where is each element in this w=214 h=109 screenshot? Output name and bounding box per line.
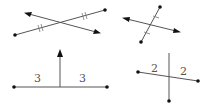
segment: [138, 72, 198, 81]
endpoint: [136, 70, 140, 74]
length-label: 2: [180, 65, 187, 78]
endpoint: [158, 5, 162, 9]
endpoint: [167, 99, 171, 103]
figure-4-perpendicular-segment: 2 2: [136, 53, 200, 103]
length-label: 3: [34, 72, 41, 85]
endpoint: [13, 33, 17, 37]
arrowhead-icon: [57, 49, 63, 57]
arrowhead-icon: [173, 28, 181, 33]
endpoint: [103, 8, 107, 12]
length-label: 3: [79, 72, 86, 85]
endpoint: [196, 79, 200, 83]
figure-1-bisector: [13, 8, 107, 37]
arrowhead-icon: [122, 17, 130, 22]
endpoint: [12, 85, 16, 89]
arrowhead-icon: [24, 12, 32, 17]
endpoint: [139, 40, 143, 44]
arrowhead-icon: [93, 29, 101, 34]
geometry-diagram: 3 3 2 2: [0, 0, 214, 109]
length-label: 2: [151, 62, 158, 75]
bisecting-line: [127, 19, 176, 31]
endpoint: [105, 85, 109, 89]
figure-2-bisector: [122, 5, 181, 44]
figure-3-perpendicular-ray: 3 3: [12, 49, 109, 89]
